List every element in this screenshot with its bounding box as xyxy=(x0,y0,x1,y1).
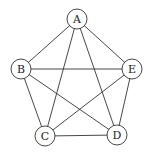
edge-c-d xyxy=(45,135,117,136)
node-d: D xyxy=(107,125,127,145)
graph-diagram: ABECD xyxy=(0,0,152,153)
node-label: B xyxy=(17,63,25,76)
node-label: A xyxy=(72,13,82,26)
edge-b-d xyxy=(21,69,117,135)
edge-b-c xyxy=(21,69,45,136)
edges-layer xyxy=(21,19,132,136)
edge-a-b xyxy=(21,19,77,69)
edge-a-d xyxy=(77,19,117,135)
node-label: E xyxy=(128,63,136,76)
nodes-layer: ABECD xyxy=(11,9,142,146)
edge-a-c xyxy=(45,19,77,136)
node-label: C xyxy=(41,130,49,143)
node-a: A xyxy=(67,9,87,29)
node-c: C xyxy=(35,126,55,146)
node-b: B xyxy=(11,59,31,79)
node-label: D xyxy=(113,129,122,142)
node-e: E xyxy=(122,59,142,79)
